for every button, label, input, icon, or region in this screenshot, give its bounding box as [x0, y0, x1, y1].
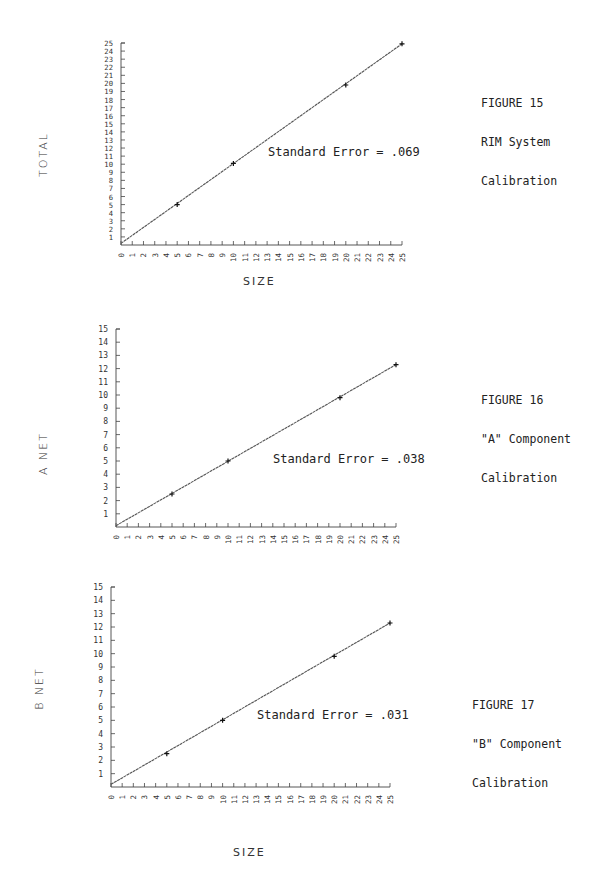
x-tick-label: 5 [173, 253, 182, 258]
y-tick-label: 4 [109, 209, 113, 218]
x-tick-label: 13 [263, 253, 272, 262]
x-tick-label: 6 [179, 535, 188, 540]
y-tick-label: 15 [104, 120, 113, 129]
x-tick-label: 9 [213, 535, 222, 540]
x-tick-label: 11 [230, 795, 239, 804]
x-tick-label: 21 [341, 795, 350, 804]
x-tick-label: 19 [319, 795, 328, 804]
y-tick-label: 25 [104, 39, 113, 48]
x-tick-label: 21 [347, 535, 356, 544]
x-tick-label: 24 [381, 535, 390, 545]
x-tick-label: 11 [241, 253, 250, 262]
y-tick-label: 11 [98, 378, 108, 387]
x-tick-label: 17 [308, 253, 317, 262]
chart-2-ylabel: A NET [37, 429, 50, 479]
figure-17-number: FIGURE 17 [472, 699, 562, 712]
x-tick-label: 22 [353, 795, 362, 804]
x-tick-label: 12 [252, 253, 261, 262]
y-tick-label: 14 [98, 338, 108, 347]
shared-bottom-xlabel: SIZE [233, 846, 266, 859]
figure-16-title-line-2: Calibration [481, 472, 571, 485]
x-tick-label: 0 [107, 795, 116, 800]
x-tick-label: 16 [297, 253, 306, 263]
figure-16-title-line-1: "A" Component [481, 433, 571, 446]
y-tick-label: 9 [103, 404, 108, 413]
y-tick-label: 12 [98, 365, 108, 374]
x-tick-label: 7 [185, 795, 194, 800]
x-tick-label: 17 [302, 535, 311, 544]
x-tick-label: 6 [184, 253, 193, 258]
y-tick-label: 7 [109, 184, 113, 193]
y-tick-label: 8 [98, 676, 103, 685]
y-tick-label: 5 [103, 457, 108, 466]
y-tick-label: 5 [98, 716, 103, 725]
x-tick-label: 24 [375, 795, 384, 805]
figure-17-title-line-2: Calibration [472, 777, 562, 790]
x-tick-label: 3 [140, 795, 149, 800]
chart-2-standard-error: Standard Error = .038 [273, 452, 425, 466]
x-tick-label: 25 [398, 253, 407, 262]
y-tick-label: 19 [104, 87, 113, 96]
chart-2: 1234567891011121314150123456789101112131… [98, 325, 401, 544]
x-tick-label: 1 [118, 795, 127, 800]
x-tick-label: 14 [263, 795, 272, 805]
y-tick-label: 10 [104, 160, 113, 169]
x-tick-label: 13 [252, 795, 261, 804]
x-tick-label: 24 [387, 253, 396, 263]
x-tick-label: 18 [314, 535, 323, 545]
x-tick-label: 13 [258, 535, 267, 544]
y-tick-label: 15 [93, 583, 103, 592]
y-tick-label: 7 [98, 690, 103, 699]
figure-16-caption: FIGURE 16 "A" Component Calibration [481, 368, 571, 498]
fit-line [121, 44, 402, 244]
x-tick-label: 17 [297, 795, 306, 804]
x-tick-label: 0 [117, 253, 126, 258]
figure-15-title-line-1: RIM System [481, 136, 557, 149]
x-tick-label: 20 [330, 795, 339, 805]
x-tick-label: 7 [196, 253, 205, 258]
y-tick-label: 4 [98, 730, 103, 739]
y-tick-label: 2 [103, 497, 108, 506]
x-tick-label: 2 [139, 253, 148, 258]
y-tick-label: 8 [109, 176, 113, 185]
chart-3: 1234567891011121314150123456789101112131… [93, 583, 395, 804]
x-tick-label: 11 [235, 535, 244, 544]
y-tick-label: 16 [104, 112, 113, 121]
y-tick-label: 6 [109, 193, 113, 202]
x-tick-label: 10 [229, 253, 238, 263]
y-tick-label: 15 [98, 325, 108, 334]
y-tick-label: 3 [98, 743, 103, 752]
y-tick-label: 1 [103, 510, 108, 519]
x-tick-label: 1 [128, 253, 137, 258]
y-tick-label: 9 [98, 663, 103, 672]
x-tick-label: 16 [286, 795, 295, 805]
chart-1-ylabel: TOTAL [37, 130, 50, 180]
x-tick-label: 1 [123, 535, 132, 540]
y-tick-label: 20 [104, 79, 113, 88]
y-tick-label: 7 [103, 431, 108, 440]
y-tick-label: 2 [109, 225, 113, 234]
x-tick-label: 2 [129, 795, 138, 800]
x-tick-label: 8 [202, 535, 211, 540]
y-tick-label: 17 [104, 104, 113, 113]
x-tick-label: 3 [151, 253, 160, 258]
x-tick-label: 10 [224, 535, 233, 545]
chart-1-xlabel: SIZE [243, 275, 276, 288]
y-tick-label: 22 [104, 63, 113, 72]
x-tick-label: 7 [190, 535, 199, 540]
y-tick-label: 6 [98, 703, 103, 712]
x-tick-label: 23 [376, 253, 385, 262]
figure-15-title-line-2: Calibration [481, 175, 557, 188]
x-tick-label: 15 [274, 795, 283, 804]
figure-17-caption: FIGURE 17 "B" Component Calibration [472, 673, 562, 803]
y-tick-label: 10 [93, 650, 103, 659]
x-tick-label: 22 [358, 535, 367, 544]
y-tick-label: 5 [109, 201, 113, 210]
x-tick-label: 12 [246, 535, 255, 544]
x-tick-label: 0 [112, 535, 121, 540]
x-tick-label: 12 [241, 795, 250, 804]
figure-15-caption: FIGURE 15 RIM System Calibration [481, 71, 557, 201]
y-tick-label: 23 [104, 55, 113, 64]
x-tick-label: 4 [157, 535, 166, 540]
x-tick-label: 9 [207, 795, 216, 800]
